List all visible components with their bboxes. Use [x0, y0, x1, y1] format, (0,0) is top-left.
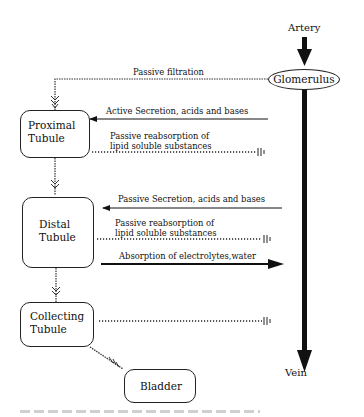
distal-to-collecting-path — [52, 268, 60, 302]
artery-label: Artery — [288, 22, 320, 33]
distal-label-line2: Tubule — [39, 231, 76, 244]
distal-absorption-label: Absorption of electrolytes,water — [119, 251, 256, 261]
collecting-label-line2: Tubule — [30, 323, 67, 336]
renal-diagram: Artery Vein Glomerulus Passive filtratio… — [0, 0, 364, 417]
vein-arrow — [297, 87, 312, 372]
collecting-to-bladder-path — [90, 347, 123, 369]
bladder-label: Bladder — [140, 380, 182, 393]
proximal-active-secretion-label: Active Secretion, acids and bases — [106, 106, 248, 116]
proximal-label-line2: Tubule — [28, 132, 65, 145]
figure-caption-truncated — [20, 410, 260, 413]
distal-tubule-node: Distal Tubule — [22, 197, 94, 268]
vein-label: Vein — [285, 367, 307, 378]
artery-arrow — [297, 37, 312, 66]
glomerulus-label: Glomerulus — [273, 73, 335, 85]
filtration-label: Passive filtration — [133, 67, 204, 77]
bladder-node: Bladder — [124, 369, 196, 403]
proximal-to-distal-path — [51, 158, 59, 195]
distal-passive-label-line2: lipid soluble substances — [115, 228, 217, 238]
collecting-label-line1: Collecting — [30, 310, 84, 323]
collecting-reabsorption-path — [99, 317, 270, 325]
proximal-label-line1: Proximal — [28, 119, 75, 132]
distal-passive-secretion-label: Passive Secretion, acids and bases — [118, 194, 265, 204]
distal-passive-label-line1: Passive reabsorption of — [115, 218, 214, 228]
proximal-passive-label-line1: Passive reabsorption of — [110, 131, 209, 141]
proximal-tubule-node: Proximal Tubule — [20, 110, 90, 158]
proximal-passive-label-line2: lipid soluble substances — [110, 141, 212, 151]
distal-label-line1: Distal — [39, 218, 70, 231]
collecting-tubule-node: Collecting Tubule — [20, 302, 94, 347]
glomerulus-node: Glomerulus — [268, 69, 340, 90]
